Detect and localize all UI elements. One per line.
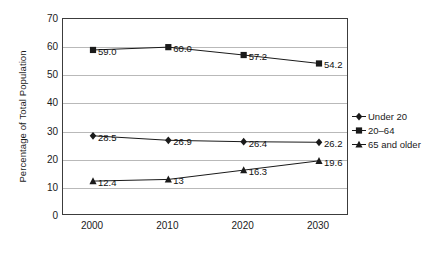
data-label: 57.2: [249, 51, 268, 62]
data-label: 59.0: [98, 45, 117, 56]
diamond-marker: [165, 136, 172, 144]
legend-item-1[interactable]: Under 20: [352, 110, 440, 123]
y-axis-tick: 40: [4, 97, 58, 108]
diamond-icon: [352, 110, 368, 123]
y-axis-tick: 20: [4, 153, 58, 164]
x-axis-tick-labels: 2000201020202030: [62, 220, 348, 238]
diamond-marker: [90, 132, 97, 140]
diamond-marker: [316, 138, 323, 146]
x-axis-tick: 2020: [213, 220, 273, 231]
legend-item-label: 65 and older: [368, 139, 421, 150]
data-label: 13: [173, 175, 184, 186]
legend-item-label: Under 20: [368, 111, 407, 122]
x-axis-tick: 2030: [288, 220, 348, 231]
x-axis-tick: 2010: [137, 220, 197, 231]
series-2: [90, 44, 322, 67]
data-label: 19.6: [324, 156, 343, 167]
square-marker: [241, 52, 247, 58]
series-3: [89, 157, 322, 184]
series-line: [93, 136, 319, 142]
series-line: [93, 47, 319, 63]
series-1: [90, 132, 323, 146]
data-label: 26.2: [324, 138, 343, 149]
diamond-marker: [240, 138, 247, 146]
square-marker: [90, 47, 96, 53]
y-axis-tick: 50: [4, 69, 58, 80]
diamond-marker: [356, 113, 363, 121]
legend-item-label: 20–64: [368, 125, 394, 136]
data-label: 26.4: [249, 137, 268, 148]
y-axis-tick-labels: 706050403020100: [0, 18, 58, 215]
legend-item-3[interactable]: 65 and older: [352, 138, 440, 151]
square-marker: [316, 60, 322, 66]
square-marker: [356, 127, 362, 133]
data-label: 60.0: [173, 43, 192, 54]
legend-item-2[interactable]: 20–64: [352, 124, 440, 137]
chart-figure: Percentage of Total Population 706050403…: [0, 0, 440, 258]
y-axis-tick: 10: [4, 181, 58, 192]
y-axis-tick: 30: [4, 125, 58, 136]
data-label: 28.5: [98, 131, 117, 142]
x-axis-tick: 2000: [62, 220, 122, 231]
triangle-marker: [315, 157, 322, 164]
data-label: 12.4: [98, 177, 117, 188]
y-axis-tick: 60: [4, 41, 58, 52]
series-line: [93, 161, 319, 181]
square-icon: [352, 124, 368, 137]
triangle-icon: [352, 138, 368, 151]
y-axis-tick: 70: [4, 13, 58, 24]
chart-legend: Under 2020–6465 and older: [352, 110, 440, 152]
y-axis-tick: 0: [4, 210, 58, 221]
plot-area: 28.526.926.426.259.060.057.254.212.41316…: [62, 18, 348, 215]
square-marker: [165, 44, 171, 50]
data-label: 54.2: [324, 59, 343, 70]
data-label: 16.3: [249, 166, 268, 177]
data-label: 26.9: [173, 136, 192, 147]
